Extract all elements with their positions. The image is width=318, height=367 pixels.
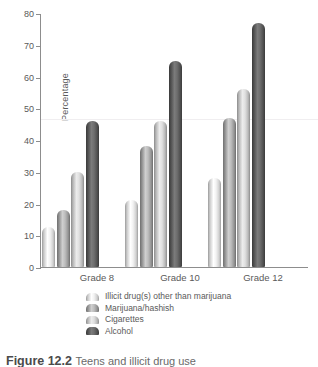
figure-container: Percentage 80 70 60 50 40 30 [0,0,318,367]
bar[interactable] [86,121,99,267]
bar[interactable] [140,146,153,267]
y-tick-label-10: 10 [24,231,34,241]
bar-groups [41,14,308,267]
bar[interactable] [154,121,167,267]
bar[interactable] [71,172,84,267]
bar[interactable] [223,118,236,267]
bar[interactable] [57,210,70,267]
y-tick-label-30: 30 [24,168,34,178]
legend-swatch-icon [86,327,99,335]
y-tick-label-0: 0 [29,263,34,273]
legend-item-label: Alcohol [105,326,133,338]
y-tick-label-70: 70 [24,41,34,51]
figure-caption-text: Figure 12.2 Teens and illicit drug use [6,355,318,367]
figure-caption: Figure 12.2 Teens and illicit drug use [6,355,318,367]
bar[interactable] [237,89,250,267]
legend-item-label: Marijuana/hashish [105,303,174,315]
bar[interactable] [42,227,55,267]
bar[interactable] [252,23,265,267]
bar[interactable] [125,200,138,267]
y-tick-0: 0 [40,268,45,269]
x-axis-line [40,267,308,268]
y-tick-label-50: 50 [24,104,34,114]
legend-swatch-icon [86,304,99,312]
y-tick-label-40: 40 [24,136,34,146]
x-tick-label-grade-12: Grade 12 [228,272,298,283]
legend-item[interactable]: Cigarettes [86,314,306,326]
legend-item[interactable]: Illicit drug(s) other than marijuana [86,291,306,303]
legend-item[interactable]: Marijuana/hashish [86,303,306,315]
y-tick-label-20: 20 [24,200,34,210]
y-tick-label-60: 60 [24,73,34,83]
legend-swatch-icon [86,293,99,301]
x-tick-label-grade-8: Grade 8 [62,272,132,283]
chart-plot-area: Percentage 80 70 60 50 40 30 [40,14,308,268]
legend-item-label: Illicit drug(s) other than marijuana [105,291,231,303]
x-tick-label-grade-10: Grade 10 [145,272,215,283]
bar[interactable] [169,61,182,267]
legend-item[interactable]: Alcohol [86,326,306,338]
y-tick-label-80: 80 [24,9,34,19]
legend-item-label: Cigarettes [105,314,144,326]
figure-caption-number: Figure 12.2 [6,355,72,367]
legend-swatch-icon [86,316,99,324]
chart-legend: Illicit drug(s) other than marijuanaMari… [86,291,306,337]
figure-caption-title: Teens and illicit drug use [75,355,195,367]
bar[interactable] [208,178,221,267]
